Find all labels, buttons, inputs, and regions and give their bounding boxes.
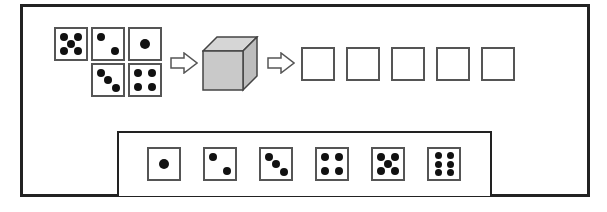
output-slot-4[interactable] bbox=[436, 47, 470, 81]
pip-dot bbox=[159, 159, 169, 169]
pip-dot bbox=[384, 160, 392, 168]
pip-dot bbox=[321, 153, 329, 161]
pip-dot bbox=[377, 153, 385, 161]
pip-dot bbox=[391, 167, 399, 175]
pip-dot bbox=[435, 169, 442, 176]
pip-dot bbox=[265, 153, 273, 161]
pip-dot bbox=[97, 69, 105, 77]
pip-dot bbox=[60, 47, 68, 55]
input-die-5 bbox=[54, 27, 88, 61]
pip-dot bbox=[335, 153, 343, 161]
input-die-1 bbox=[128, 27, 162, 61]
pip-dot bbox=[74, 47, 82, 55]
pip-dot bbox=[280, 168, 288, 176]
option-die-1[interactable] bbox=[147, 147, 181, 181]
pip-dot bbox=[148, 69, 156, 77]
pip-dot bbox=[134, 69, 142, 77]
pip-dot bbox=[447, 161, 454, 168]
arrow-right-icon bbox=[267, 52, 295, 74]
pip-dot bbox=[377, 167, 385, 175]
option-die-2[interactable] bbox=[203, 147, 237, 181]
pip-dot bbox=[111, 47, 119, 55]
pip-dot bbox=[209, 153, 217, 161]
input-die-2 bbox=[91, 27, 125, 61]
option-die-5[interactable] bbox=[371, 147, 405, 181]
pip-dot bbox=[272, 160, 280, 168]
pip-dot bbox=[104, 76, 112, 84]
output-slot-3[interactable] bbox=[391, 47, 425, 81]
pip-dot bbox=[321, 167, 329, 175]
pip-dot bbox=[447, 169, 454, 176]
pip-dot bbox=[67, 40, 75, 48]
pip-dot bbox=[447, 152, 454, 159]
output-slot-1[interactable] bbox=[301, 47, 335, 81]
pip-dot bbox=[140, 39, 150, 49]
pip-dot bbox=[335, 167, 343, 175]
pip-dot bbox=[148, 83, 156, 91]
pip-dot bbox=[74, 33, 82, 41]
input-die-3 bbox=[91, 63, 125, 97]
option-die-3[interactable] bbox=[259, 147, 293, 181]
output-slot-2[interactable] bbox=[346, 47, 380, 81]
option-die-4[interactable] bbox=[315, 147, 349, 181]
pip-dot bbox=[435, 152, 442, 159]
output-slot-5[interactable] bbox=[481, 47, 515, 81]
arrow-right-icon bbox=[170, 52, 198, 74]
pip-dot bbox=[112, 84, 120, 92]
cube-icon bbox=[202, 36, 260, 92]
input-die-4 bbox=[128, 63, 162, 97]
pip-dot bbox=[60, 33, 68, 41]
pip-dot bbox=[223, 167, 231, 175]
pip-dot bbox=[97, 33, 105, 41]
pip-dot bbox=[391, 153, 399, 161]
option-die-6[interactable] bbox=[427, 147, 461, 181]
pip-dot bbox=[134, 83, 142, 91]
pip-dot bbox=[435, 161, 442, 168]
